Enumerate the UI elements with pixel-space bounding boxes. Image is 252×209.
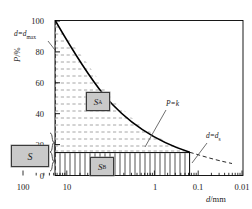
x-tick-100: 100 — [9, 182, 37, 192]
figure-container: P/% 100 80 60 40 20 0 100 10 1 0.1 0.01 … — [0, 0, 252, 209]
region-sb-box: SB — [90, 157, 114, 176]
y-tick-80: 80 — [22, 47, 44, 57]
y-tick-0: 0 — [22, 171, 44, 181]
y-axis-title-unit: /% — [12, 47, 22, 56]
x-tick-0.1: 0.1 — [184, 182, 212, 192]
s-brace — [50, 133, 54, 171]
y-axis-title: P/% — [12, 47, 22, 62]
d-s-annotation: d=ds — [206, 131, 221, 142]
region-s-box: S — [11, 145, 49, 167]
d-s-annotation-sub: s — [219, 136, 221, 142]
d-max-leader — [48, 41, 55, 50]
d-max-annotation-text: d=d — [14, 29, 27, 38]
x-axis-title-unit: /mm — [210, 194, 226, 204]
region-sa-sub: A — [98, 99, 102, 105]
region-s-label: S — [28, 151, 33, 162]
y-tick-40: 40 — [22, 109, 44, 119]
p-k-annotation: P=k — [166, 99, 179, 108]
region-sa-box: SA — [86, 92, 110, 111]
region-sb-sub: B — [102, 164, 106, 170]
x-tick-0.01: 0.01 — [228, 182, 252, 192]
d-s-annotation-text: d=d — [206, 131, 219, 140]
x-tick-10: 10 — [53, 182, 81, 192]
x-tick-1: 1 — [141, 182, 169, 192]
d-max-annotation: d=dmax — [14, 29, 36, 40]
y-tick-60: 60 — [22, 78, 44, 88]
d-max-annotation-sub: max — [27, 34, 36, 40]
x-axis-title: d/mm — [206, 194, 226, 204]
y-tick-100: 100 — [22, 16, 44, 26]
y-axis-title-symbol: P — [12, 57, 22, 62]
